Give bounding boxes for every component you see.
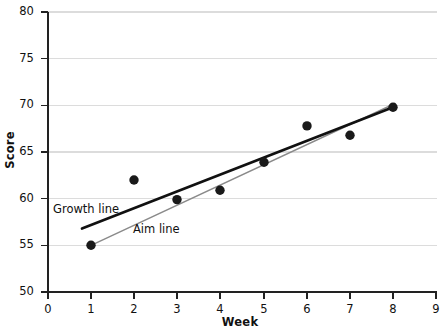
data-point: [302, 121, 311, 130]
x-axis-title: Week: [215, 315, 265, 329]
plot-area: [0, 0, 445, 334]
x-axis-ticks: [48, 292, 436, 299]
x-tick-label-4: 4: [210, 302, 230, 316]
scatter-chart-figure: 80 75 70 65 60 55 50 0 1 2 3 4 5 6 7 8 9…: [0, 0, 445, 334]
data-point: [388, 103, 397, 112]
x-tick-label-9: 9: [426, 302, 445, 316]
data-point: [172, 195, 181, 204]
growth-line: [82, 107, 393, 228]
x-tick-label-0: 0: [38, 302, 58, 316]
y-axis-title: Score: [3, 127, 17, 173]
y-tick-label-75: 75: [6, 51, 34, 65]
y-axis-ticks: [41, 12, 48, 292]
x-tick-label-7: 7: [340, 302, 360, 316]
y-tick-label-50: 50: [6, 284, 34, 298]
y-tick-label-55: 55: [6, 237, 34, 251]
x-tick-label-8: 8: [383, 302, 403, 316]
x-tick-label-1: 1: [81, 302, 101, 316]
growth-line-label: Growth line: [53, 202, 119, 216]
x-tick-label-3: 3: [167, 302, 187, 316]
x-tick-label-5: 5: [254, 302, 274, 316]
data-point: [129, 175, 138, 184]
data-point: [215, 186, 224, 195]
x-tick-label-6: 6: [297, 302, 317, 316]
data-point: [86, 241, 95, 250]
y-tick-label-80: 80: [6, 4, 34, 18]
y-tick-label-60: 60: [6, 191, 34, 205]
x-tick-label-2: 2: [124, 302, 144, 316]
data-point: [345, 131, 354, 140]
aim-line-label: Aim line: [133, 222, 180, 236]
data-point: [259, 158, 268, 167]
y-tick-label-70: 70: [6, 97, 34, 111]
